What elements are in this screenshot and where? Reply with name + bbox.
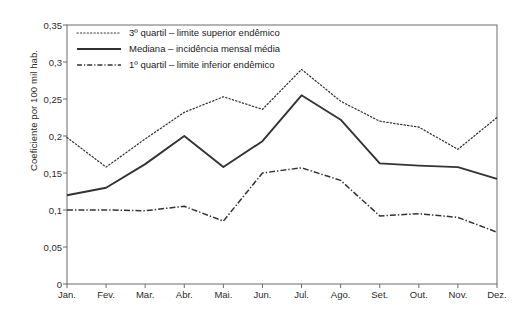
- legend-label: Mediana – incidência mensal média: [129, 43, 280, 54]
- legend-item: 1º quartil – limite inferior endêmico: [76, 57, 366, 72]
- legend-label: 1º quartil – limite inferior endêmico: [129, 59, 275, 70]
- dashdot-line-key: [76, 60, 122, 70]
- dotted-line-key: [76, 28, 122, 38]
- solid-line-key: [76, 44, 122, 54]
- series-line: [67, 95, 497, 195]
- legend-item: 3º quartil – limite superior endêmico: [76, 25, 366, 40]
- endemic-channel-chart: Coeficiente por 100 mil hab. 0,350,30,25…: [0, 0, 528, 320]
- series-line: [67, 168, 497, 232]
- chart-legend: 3º quartil – limite superior endêmico Me…: [76, 20, 366, 76]
- legend-item: Mediana – incidência mensal média: [76, 41, 366, 56]
- legend-label: 3º quartil – limite superior endêmico: [129, 27, 280, 38]
